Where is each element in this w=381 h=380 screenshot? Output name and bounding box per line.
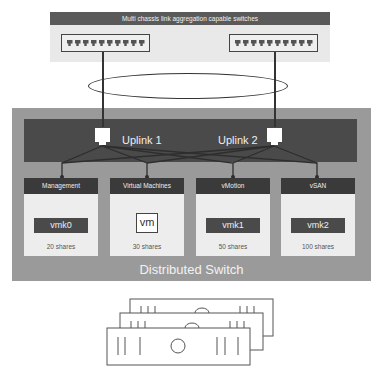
server-stack-icon [0, 0, 381, 380]
